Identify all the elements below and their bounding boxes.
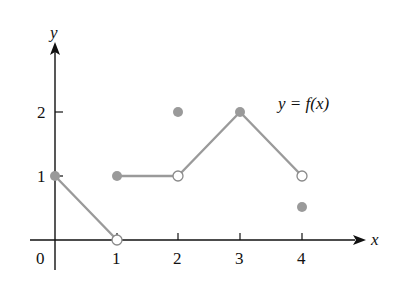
- open-point-2-1: [173, 171, 183, 181]
- x-tick-label-3: 3: [235, 249, 244, 268]
- x-axis-label: x: [370, 230, 379, 249]
- y-tick-label-2: 2: [37, 103, 46, 122]
- y-tick-label-1: 1: [37, 167, 46, 186]
- open-point-1-0: [112, 235, 122, 245]
- segment-3-4: [240, 112, 302, 176]
- open-point-4-1: [297, 171, 307, 181]
- x-tick-label-1: 1: [112, 249, 121, 268]
- y-axis-label: y: [48, 23, 58, 42]
- x-tick-label-0: 0: [36, 249, 45, 268]
- function-label: y = f(x): [276, 94, 329, 113]
- filled-point-1-1: [112, 171, 122, 181]
- filled-point-4-0.5: [297, 202, 307, 212]
- x-tick-label-4: 4: [297, 249, 306, 268]
- x-tick-label-2: 2: [173, 249, 182, 268]
- filled-point-0-1: [50, 171, 60, 181]
- segment-0-1: [55, 176, 117, 240]
- segment-2-3: [178, 112, 240, 176]
- filled-point-3-2: [235, 107, 245, 117]
- function-graph: 0 1 2 3 4 1 2 y x y = f(x): [0, 0, 419, 281]
- filled-point-2-2: [173, 107, 183, 117]
